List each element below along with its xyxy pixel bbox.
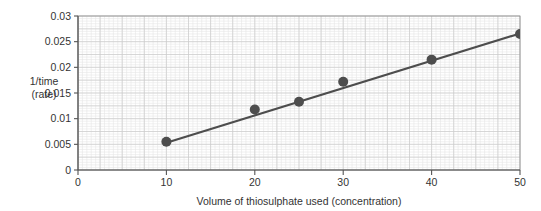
y-tick-label: 0.01 [51,112,72,124]
y-axis-title-line-2: (rate) [31,88,56,100]
y-tick-label: 0.025 [45,35,71,47]
x-tick-label: 30 [337,176,349,188]
x-tick-label: 0 [75,176,81,188]
data-point [427,55,437,65]
y-tick-label: 0.03 [51,10,72,22]
scatter-plot-svg: 00.0050.010.0150.020.0250.03 01020304050… [0,0,541,211]
data-point [161,137,171,147]
x-axis-title: Volume of thiosulphate used (concentrati… [197,195,402,207]
data-point [250,104,260,114]
chart-figure: 00.0050.010.0150.020.0250.03 01020304050… [0,0,541,211]
x-tick-label: 10 [161,176,173,188]
data-point [338,77,348,87]
x-tick-label: 40 [426,176,438,188]
x-tick-label: 20 [249,176,261,188]
y-tick-label: 0 [65,164,71,176]
y-axis-title-line-1: 1/time [30,75,59,87]
grid-major-lines [78,16,520,170]
y-tick-label: 0.005 [45,138,71,150]
y-tick-label: 0.02 [51,61,72,73]
data-point [294,97,304,107]
x-tick-label: 50 [514,176,526,188]
